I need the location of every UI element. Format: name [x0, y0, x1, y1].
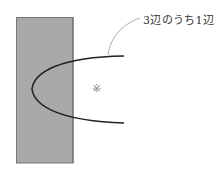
- leader-line: [108, 18, 140, 55]
- diagram: 3辺のうち1辺 ※: [0, 0, 223, 174]
- side-label: 3辺のうち1辺: [143, 11, 214, 27]
- gray-rectangle: [17, 18, 74, 164]
- reference-mark: ※: [92, 82, 101, 95]
